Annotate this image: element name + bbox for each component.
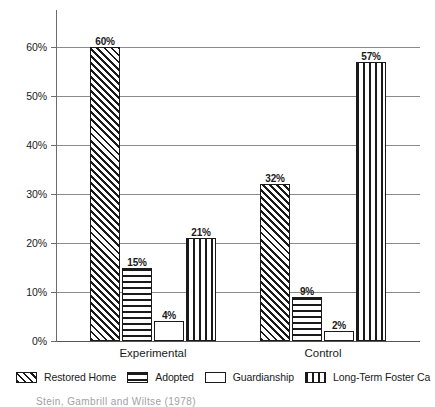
chart-legend: Restored HomeAdoptedGuardianshipLong-Ter… xyxy=(16,369,435,385)
bar-value-label: 2% xyxy=(332,320,346,331)
bar-value-label: 9% xyxy=(300,286,314,297)
y-tick-mark xyxy=(51,194,57,195)
legend-label: Long-Term Foster Ca xyxy=(333,371,430,383)
y-axis-tick-label: 30% xyxy=(26,188,47,200)
y-axis-tick-label: 60% xyxy=(26,41,47,53)
bar-control-restored-home[interactable]: 32% xyxy=(260,184,290,341)
legend-label: Restored Home xyxy=(44,371,116,383)
legend-swatch-horizontal-stripes-icon xyxy=(127,372,148,383)
y-tick-mark xyxy=(51,96,57,97)
legend-item[interactable]: Adopted xyxy=(127,371,193,383)
bar-control-adopted[interactable]: 9% xyxy=(292,297,322,341)
y-tick-mark xyxy=(51,243,57,244)
bar-experimental-restored-home[interactable]: 60% xyxy=(90,47,120,341)
bar-value-label: 57% xyxy=(361,51,380,62)
legend-item[interactable]: Long-Term Foster Ca xyxy=(305,371,430,383)
bar-experimental-guardianship[interactable]: 4% xyxy=(154,321,184,341)
legend-swatch-vertical-stripes-icon xyxy=(305,372,326,383)
y-tick-mark xyxy=(51,292,57,293)
y-tick-mark xyxy=(51,341,57,342)
y-axis-tick-label: 0% xyxy=(32,335,47,347)
bar-control-long-term-foster-care[interactable]: 57% xyxy=(356,62,386,341)
bar-experimental-long-term-foster-care[interactable]: 21% xyxy=(186,238,216,341)
bar-value-label: 4% xyxy=(162,310,176,321)
bar-experimental-adopted[interactable]: 15% xyxy=(122,268,152,342)
bar-control-guardianship[interactable]: 2% xyxy=(324,331,354,341)
legend-item[interactable]: Restored Home xyxy=(16,371,116,383)
plot-area: 60%50%40%30%20%10%0% 60%15%4%21%32%9%2%5… xyxy=(56,10,420,341)
bar-value-label: 15% xyxy=(127,257,146,268)
legend-label: Adopted xyxy=(155,371,193,383)
x-axis-group-label-experimental: Experimental xyxy=(119,347,186,359)
gridline-0 xyxy=(56,341,420,342)
legend-label: Guardianship xyxy=(233,371,294,383)
source-caption: Stein, Gambrill and Wiltse (1978) xyxy=(36,396,196,407)
bar-value-label: 21% xyxy=(191,227,210,238)
y-tick-mark xyxy=(51,145,57,146)
bar-value-label: 60% xyxy=(95,36,114,47)
y-axis-tick-label: 40% xyxy=(26,139,47,151)
legend-swatch-diagonal-hatch-icon xyxy=(16,372,37,383)
y-axis-tick-label: 20% xyxy=(26,237,47,249)
y-axis-tick-label: 50% xyxy=(26,90,47,102)
y-axis-tick-label: 10% xyxy=(26,286,47,298)
x-axis-group-label-control: Control xyxy=(304,347,341,359)
legend-swatch-empty-icon xyxy=(205,372,226,383)
bar-value-label: 32% xyxy=(265,173,284,184)
y-tick-mark xyxy=(51,47,57,48)
legend-item[interactable]: Guardianship xyxy=(205,371,294,383)
